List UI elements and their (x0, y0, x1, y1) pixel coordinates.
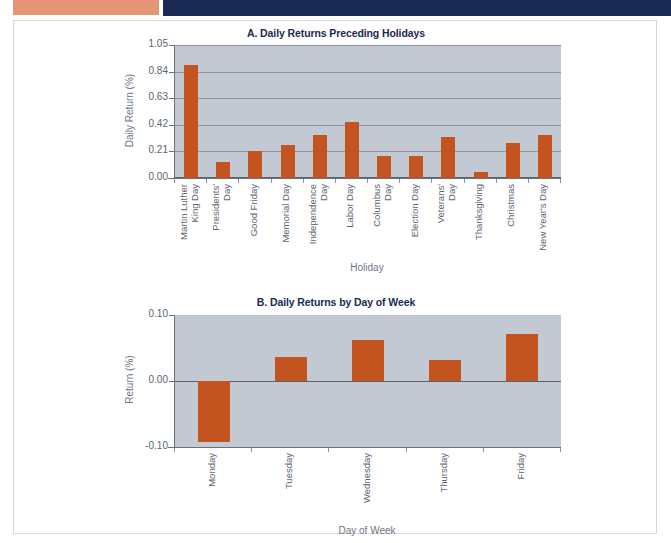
x-tick-label: Thursday (439, 453, 450, 519)
y-tick-label: 0.10 (128, 308, 168, 319)
y-tick-label: 0.63 (128, 91, 168, 102)
x-tick-mark (496, 179, 497, 183)
bar (216, 162, 230, 178)
x-tick-mark (406, 448, 407, 452)
x-tick-mark (528, 179, 529, 183)
bar (248, 151, 262, 178)
bar (538, 135, 552, 178)
decorative-top-bands (0, 0, 671, 16)
chart-b-x-axis-title: Day of Week (174, 525, 560, 536)
gridline (175, 45, 561, 46)
chart-b-plot-area (174, 315, 561, 447)
x-tick-mark (335, 179, 336, 183)
x-axis-line (168, 447, 561, 448)
bar (377, 156, 391, 178)
gridline (175, 72, 561, 73)
bar (345, 122, 359, 178)
x-tick-label: Martin LutherKing Day (179, 184, 200, 256)
x-tick-label: IndependenceDay (308, 184, 329, 256)
y-tick-label: 0.00 (128, 171, 168, 182)
bar (409, 156, 423, 178)
x-tick-label: Tuesday (284, 453, 295, 519)
bar (184, 65, 198, 178)
chart-a-plot-area (174, 45, 561, 178)
bar (429, 360, 461, 381)
y-tick-label: 1.05 (128, 38, 168, 49)
gridline (175, 125, 561, 126)
x-tick-mark (174, 448, 175, 452)
gridline (175, 98, 561, 99)
x-tick-label: New Year's Day (538, 184, 549, 256)
bar (281, 145, 295, 178)
x-axis-line (168, 178, 561, 179)
x-tick-label: Monday (207, 453, 218, 519)
x-tick-mark (303, 179, 304, 183)
navy-band (163, 0, 671, 16)
x-tick-mark (328, 448, 329, 452)
bar (198, 381, 230, 442)
gridline (175, 151, 561, 152)
bar (441, 137, 455, 178)
bar (506, 143, 520, 178)
zero-baseline (175, 381, 561, 382)
x-tick-label: Christmas (506, 184, 517, 256)
x-tick-label: Memorial Day (281, 184, 292, 256)
x-tick-label: Presidents'Day (211, 184, 232, 256)
bar (506, 334, 538, 381)
x-tick-label: Wednesday (362, 453, 373, 519)
orange-band (13, 0, 159, 15)
x-tick-mark (271, 179, 272, 183)
x-tick-mark (431, 179, 432, 183)
x-tick-mark (399, 179, 400, 183)
x-tick-label: ColumbusDay (372, 184, 393, 256)
x-tick-mark (560, 448, 561, 452)
x-tick-mark (367, 179, 368, 183)
x-tick-mark (483, 448, 484, 452)
chart-a-x-axis-title: Holiday (174, 262, 560, 273)
y-tick-label: 0.00 (128, 374, 168, 385)
x-tick-mark (560, 179, 561, 183)
x-tick-label: Veterans'Day (436, 184, 457, 256)
x-tick-label: Election Day (410, 184, 421, 256)
x-tick-mark (238, 179, 239, 183)
figure-panel: A. Daily Returns Preceding Holidays Dail… (13, 20, 657, 534)
chart-a-title: A. Daily Returns Preceding Holidays (14, 27, 658, 39)
x-tick-label: Labor Day (345, 184, 356, 256)
bar (275, 357, 307, 381)
x-tick-mark (206, 179, 207, 183)
x-tick-mark (251, 448, 252, 452)
bar (352, 340, 384, 381)
y-tick-label: 0.84 (128, 65, 168, 76)
x-tick-label: Good Friday (249, 184, 260, 256)
y-tick-label: 0.21 (128, 144, 168, 155)
x-tick-mark (174, 179, 175, 183)
chart-b-title: B. Daily Returns by Day of Week (14, 296, 658, 308)
x-tick-mark (464, 179, 465, 183)
x-tick-label: Thanksgiving (474, 184, 485, 256)
x-tick-label: Friday (516, 453, 527, 519)
bar (313, 135, 327, 178)
y-tick-label: -0.10 (128, 440, 168, 451)
y-tick-label: 0.42 (128, 118, 168, 129)
